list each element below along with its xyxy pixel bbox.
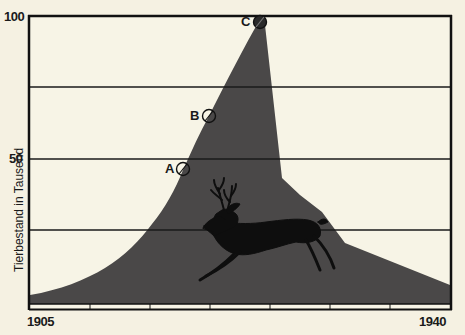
x-tick-1905: 1905 [27,314,54,329]
x-tick-1940: 1940 [419,314,446,329]
marker-c-circle [254,16,267,29]
marker-c-label: C [241,14,250,29]
marker-a-label: A [165,161,174,176]
y-tick-100: 100 [4,9,24,24]
marker-b-label: B [190,108,199,123]
chart-canvas [0,0,465,335]
y-axis-label: Tierbestand in Tausend [12,162,26,272]
